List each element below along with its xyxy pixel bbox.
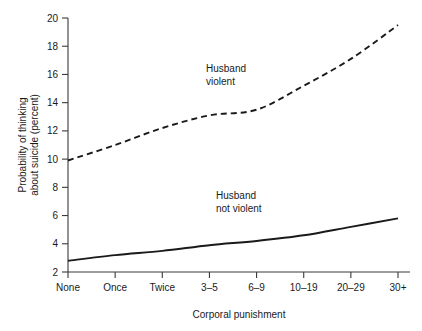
y-tick-label: 6 bbox=[52, 210, 58, 221]
suicide-probability-chart: 2468101214161820 NoneOnceTwice3–56–910–1… bbox=[0, 0, 422, 331]
x-tick-label: 3–5 bbox=[201, 282, 218, 293]
x-tick-label: 10–19 bbox=[290, 282, 318, 293]
y-tick-label: 18 bbox=[47, 41, 59, 52]
annotation-husband-not-violent-line1: Husband bbox=[216, 190, 256, 201]
x-axis-title: Corporal punishment bbox=[193, 309, 286, 320]
annotation-husband-violent-line1: Husband bbox=[206, 63, 246, 74]
x-tick-label: 30+ bbox=[390, 282, 407, 293]
y-tick-label: 10 bbox=[47, 154, 59, 165]
x-tick-label: Once bbox=[103, 282, 127, 293]
annotation-husband-violent-line2: violent bbox=[206, 76, 235, 87]
y-axis-title-line1: Probability of thinking bbox=[17, 97, 28, 192]
y-tick-label: 16 bbox=[47, 69, 59, 80]
x-tick-label: None bbox=[56, 282, 80, 293]
x-tick-label: 20–29 bbox=[337, 282, 365, 293]
y-tick-label: 4 bbox=[52, 238, 58, 249]
x-tick-label: 6–9 bbox=[248, 282, 265, 293]
y-tick-label: 12 bbox=[47, 125, 59, 136]
y-tick-label: 2 bbox=[52, 267, 58, 278]
y-axis-title-line2: about suicide (percent) bbox=[29, 94, 40, 196]
y-tick-label: 8 bbox=[52, 182, 58, 193]
y-tick-label: 20 bbox=[47, 13, 59, 24]
x-tick-label: Twice bbox=[150, 282, 176, 293]
y-tick-label: 14 bbox=[47, 97, 59, 108]
annotation-husband-not-violent-line2: not violent bbox=[216, 203, 262, 214]
